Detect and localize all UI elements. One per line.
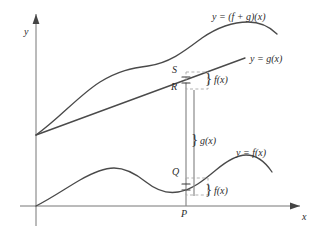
g-brace-label: g(x): [200, 136, 216, 146]
axes-group: [20, 14, 300, 226]
g-line-path: [36, 58, 245, 135]
upper-f-brace-label: f(x): [214, 75, 228, 85]
point-label-s: S: [172, 65, 177, 75]
point-label-q: Q: [172, 167, 179, 177]
y-axis-arrowhead: [33, 14, 40, 24]
g-brace-glyph: }: [191, 132, 198, 147]
function-sum-diagram: y x y = (f + g)(x) y = g(x) y = f(x) S R…: [0, 0, 323, 238]
f-curve-path: [36, 155, 272, 206]
x-axis-label: x: [302, 212, 306, 222]
point-label-r: R: [171, 82, 177, 92]
curves-group: [36, 22, 277, 206]
y-axis-label: y: [24, 27, 28, 37]
upper-f-brace-glyph: }: [205, 71, 212, 86]
g-curve-label: y = g(x): [250, 54, 282, 64]
diagram-canvas: [0, 0, 323, 238]
lower-f-brace-glyph: }: [205, 182, 212, 197]
f-curve-label: y = f(x): [236, 148, 266, 158]
lower-f-brace-label: f(x): [214, 186, 228, 196]
point-label-p: P: [181, 209, 187, 219]
x-axis-arrowhead: [290, 203, 300, 210]
sum-curve-path: [36, 22, 277, 135]
sum-curve-label: y = (f + g)(x): [212, 12, 265, 22]
